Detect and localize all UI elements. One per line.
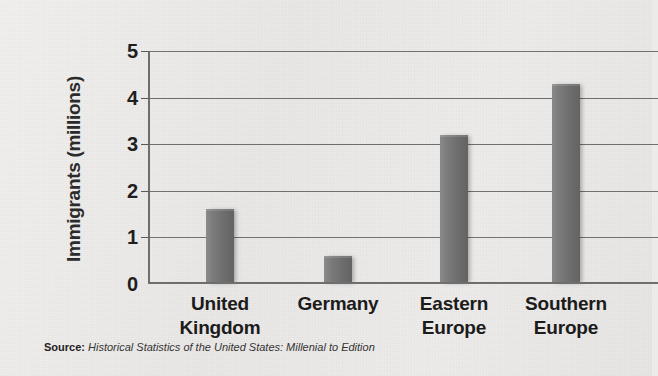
x-label-southern-europe: Southern Europe — [491, 292, 641, 340]
plot-area — [148, 51, 658, 284]
y-axis-tick-labels: 0 1 2 3 4 5 — [102, 51, 138, 284]
source-label: Source: — [44, 341, 85, 353]
x-label-line2: Kingdom — [145, 316, 295, 340]
y-tick-label-2: 2 — [108, 179, 138, 202]
bar-germany — [324, 256, 352, 284]
gridline-5 — [148, 51, 658, 52]
bar-united-kingdom — [206, 209, 234, 284]
x-label-line1: Germany — [298, 293, 379, 314]
gridline-2 — [148, 191, 658, 192]
bar-southern-europe — [552, 84, 580, 284]
y-axis-title-text: Immigrants (millions) — [63, 76, 85, 262]
x-label-line1: Eastern — [420, 293, 488, 314]
y-tick-label-3: 3 — [108, 133, 138, 156]
y-axis-line — [148, 51, 150, 284]
x-label-line1: Southern — [525, 293, 607, 314]
y-tick-label-1: 1 — [108, 226, 138, 249]
y-axis-title: Immigrants (millions) — [54, 46, 94, 291]
x-label-line1: United — [191, 293, 249, 314]
source-text: Historical Statistics of the United Stat… — [88, 341, 375, 353]
gridline-3 — [148, 144, 658, 145]
gridline-4 — [148, 98, 658, 99]
y-tick-label-5: 5 — [108, 40, 138, 63]
x-axis-line — [148, 282, 658, 284]
source-note: Source: Historical Statistics of the Uni… — [44, 341, 375, 353]
x-label-line2: Europe — [491, 316, 641, 340]
bar-eastern-europe — [440, 135, 468, 284]
y-tick-label-0: 0 — [108, 273, 138, 296]
immigrants-bar-chart: Immigrants (millions) 0 1 2 3 4 5 United… — [40, 16, 612, 360]
y-tick-label-4: 4 — [108, 86, 138, 109]
